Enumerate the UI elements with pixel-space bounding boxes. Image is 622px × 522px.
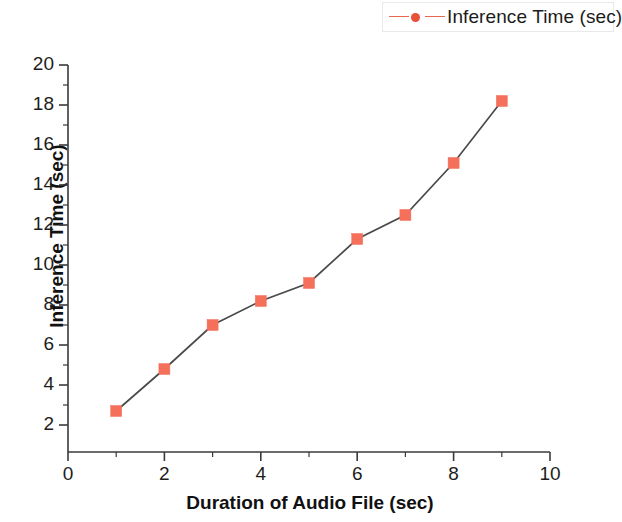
series-point-marker	[448, 158, 459, 169]
y-tick-label: 8	[43, 293, 54, 314]
y-tick-label: 4	[43, 373, 54, 394]
y-tick-label: 6	[43, 333, 54, 354]
x-tick-label: 6	[352, 463, 363, 484]
x-tick-label: 2	[159, 463, 170, 484]
y-tick-label: 16	[33, 133, 54, 154]
x-tick-label: 10	[539, 463, 560, 484]
x-tick-label: 4	[256, 463, 267, 484]
y-tick-label: 2	[43, 413, 54, 434]
axis-tick-labels: 24681012141618200246810	[33, 53, 561, 484]
y-tick-label: 20	[33, 53, 54, 74]
series-point-marker	[352, 234, 363, 245]
series-point-marker	[304, 278, 315, 289]
series-point-marker	[400, 210, 411, 221]
axis-ticks	[59, 65, 550, 461]
series-point-marker	[207, 320, 218, 331]
x-tick-label: 0	[63, 463, 74, 484]
series-point-marker	[159, 364, 170, 375]
series-point-marker	[255, 296, 266, 307]
y-tick-label: 12	[33, 213, 54, 234]
y-tick-label: 14	[33, 173, 55, 194]
x-tick-label: 8	[448, 463, 459, 484]
y-tick-label: 18	[33, 93, 54, 114]
y-tick-label: 10	[33, 253, 54, 274]
series-point-marker	[111, 406, 122, 417]
axes	[68, 65, 550, 452]
series-line	[116, 101, 502, 411]
series-point-marker	[496, 96, 507, 107]
data-series	[111, 96, 508, 417]
